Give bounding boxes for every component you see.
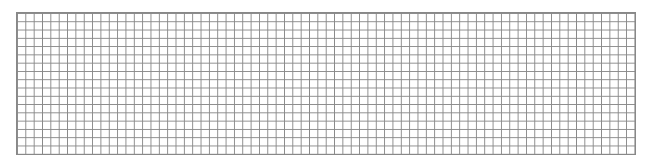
graph-paper-grid <box>16 12 636 155</box>
